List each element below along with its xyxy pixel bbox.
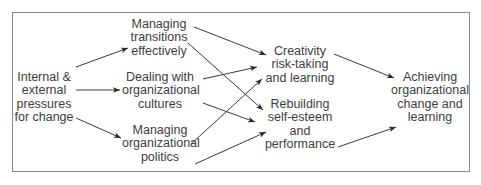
node-line: Managing bbox=[127, 18, 191, 31]
node-achieving-change: Achieving organizational change and lear… bbox=[391, 71, 469, 125]
arrow-pressures-to-politics bbox=[76, 118, 121, 138]
arrow-politics-to-creativity bbox=[191, 79, 262, 144]
node-internal-external-pressures: Internal & external pressures for change bbox=[14, 71, 74, 125]
node-rebuilding-self-esteem: Rebuilding self-esteem and performance bbox=[262, 98, 338, 152]
node-line: learning bbox=[391, 111, 469, 124]
arrow-transitions-to-rebuilding bbox=[188, 43, 263, 110]
node-line: organizational bbox=[122, 84, 198, 97]
node-line: politics bbox=[122, 151, 198, 164]
arrow-creativity-to-achieving bbox=[334, 54, 394, 78]
node-line: cultures bbox=[122, 98, 198, 111]
node-line: for change bbox=[14, 111, 74, 124]
node-line: performance bbox=[262, 138, 338, 151]
arrow-politics-to-rebuilding bbox=[195, 132, 266, 164]
node-line: organizational bbox=[391, 84, 469, 97]
node-line: effectively bbox=[127, 45, 191, 58]
node-creativity-risk-taking: Creativity risk-taking and learning bbox=[262, 45, 338, 85]
node-line: Achieving bbox=[391, 71, 469, 84]
node-line: external bbox=[14, 84, 74, 97]
node-line: change and bbox=[391, 98, 469, 111]
node-line: Rebuilding bbox=[262, 98, 338, 111]
arrow-cultures-to-creativity bbox=[203, 67, 257, 79]
arrow-rebuilding-to-achieving bbox=[338, 127, 396, 147]
node-line: Dealing with bbox=[122, 71, 198, 84]
node-line: and bbox=[262, 125, 338, 138]
arrow-cultures-to-rebuilding bbox=[203, 103, 255, 122]
node-managing-politics: Managing organizational politics bbox=[122, 124, 198, 164]
node-line: organizational bbox=[122, 137, 198, 150]
node-line: self-esteem bbox=[262, 111, 338, 124]
node-dealing-with-cultures: Dealing with organizational cultures bbox=[122, 71, 198, 111]
node-managing-transitions: Managing transitions effectively bbox=[127, 18, 191, 58]
node-line: and learning bbox=[262, 72, 338, 85]
node-line: risk-taking bbox=[262, 58, 338, 71]
arrow-pressures-to-transitions bbox=[76, 48, 128, 67]
arrow-transitions-to-creativity bbox=[194, 27, 266, 55]
node-line: Internal & bbox=[14, 71, 74, 84]
node-line: transitions bbox=[127, 31, 191, 44]
node-line: Managing bbox=[122, 124, 198, 137]
node-line: pressures bbox=[14, 98, 74, 111]
node-line: Creativity bbox=[262, 45, 338, 58]
